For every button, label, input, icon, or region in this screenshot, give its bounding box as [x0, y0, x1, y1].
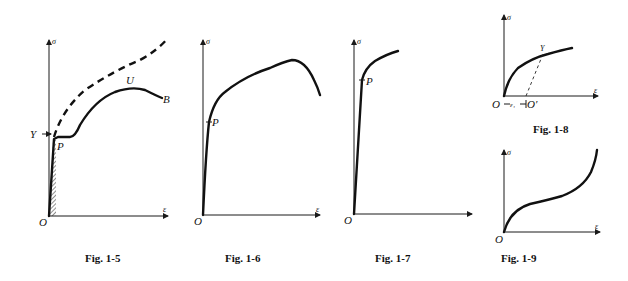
caption: Fig. 1-9: [501, 252, 537, 264]
origin-label: O: [194, 215, 202, 227]
fig-1-5: σ ε Y P U B O Fig. 1-5: [30, 37, 170, 264]
caption: Fig. 1-8: [533, 123, 569, 135]
caption: Fig. 1-7: [375, 252, 411, 264]
fig-1-9: σ ε O Fig. 1-9: [495, 148, 600, 264]
sigma-label: σ: [206, 37, 211, 46]
origin-label: O: [495, 233, 503, 245]
label-epsilon1: ε₁: [510, 101, 515, 109]
stress-strain-curve: [203, 60, 320, 215]
label-Y: Y: [30, 128, 38, 140]
caption: Fig. 1-6: [225, 252, 261, 264]
epsilon-label: ε: [595, 222, 599, 231]
engineering-curve: [49, 88, 162, 216]
origin-label: O: [39, 216, 47, 228]
sigma-label: σ: [507, 148, 512, 157]
fig-1-6: σ ε P O Fig. 1-6: [194, 37, 320, 264]
stress-strain-curve: [504, 150, 597, 232]
true-stress-curve: [54, 38, 168, 137]
epsilon-label: ε: [316, 205, 320, 214]
fig-1-8: σ ε Y ε₁ O′ O Fig. 1-8: [492, 13, 598, 135]
label-P: P: [211, 116, 219, 128]
fig-1-7: σ P O Fig. 1-7: [344, 37, 472, 264]
label-B: B: [163, 93, 170, 105]
label-P: P: [365, 75, 373, 87]
stress-strain-curve: [354, 51, 398, 214]
origin-label: O: [492, 98, 500, 110]
epsilon-label: ε: [594, 86, 598, 95]
epsilon-label: ε: [163, 205, 167, 214]
label-Y: Y: [540, 44, 546, 53]
label-P: P: [56, 140, 64, 152]
label-O-prime: O′: [527, 98, 538, 110]
stress-strain-curve: [504, 48, 572, 96]
sigma-label: σ: [52, 37, 57, 46]
sigma-label: σ: [357, 37, 362, 46]
caption: Fig. 1-5: [85, 252, 121, 264]
sigma-label: σ: [507, 13, 512, 22]
origin-label: O: [344, 214, 352, 226]
label-U: U: [126, 74, 135, 86]
